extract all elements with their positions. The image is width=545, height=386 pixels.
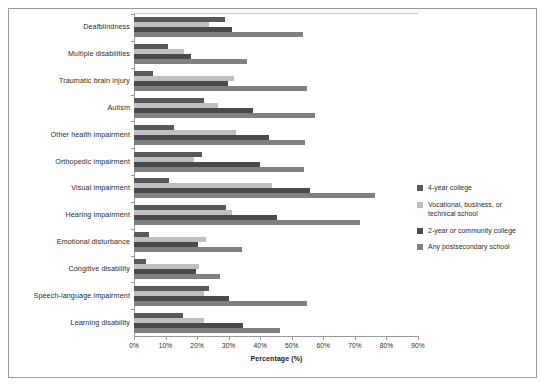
legend-item-label: 2-year or community college [428,227,516,234]
chart-category-group [134,256,418,283]
y-axis-tick [131,95,134,96]
x-axis-tick-label: 20% [182,342,212,349]
chart-bar [134,274,220,279]
y-axis-category-label: Learning disability [10,318,130,327]
y-axis-category-label: Other health impairment [10,130,130,139]
chart-bar [134,32,303,37]
y-axis-tick [131,14,134,15]
x-axis-tick-label: 80% [371,342,401,349]
y-axis-category-label: Emotional disturbance [10,237,130,246]
x-axis-tick [323,336,324,340]
legend-item-label: 4-year college [428,184,472,191]
x-axis-tick-label: 70% [340,342,370,349]
x-axis-tick [386,336,387,340]
chart-bar [134,113,315,118]
chart-category-group [134,175,418,202]
y-axis-category-label: Visual impairment [10,183,130,192]
x-axis-tick-label: 0% [119,342,149,349]
chart-bar [134,140,305,145]
x-axis-tick-label: 90% [403,342,433,349]
y-axis-category-label: Autism [10,103,130,112]
y-axis-tick [131,148,134,149]
chart-category-group [134,148,418,175]
y-axis-category-label: Traumatic brain injury [10,76,130,85]
x-axis-tick-label: 60% [308,342,338,349]
chart-bar [134,301,307,306]
chart-bar [134,86,307,91]
legend-item-label: Vocational, business, or technical schoo… [428,201,502,218]
y-axis-tick [131,309,134,310]
chart-bar [134,220,360,225]
x-axis-tick [355,336,356,340]
y-axis-category-label: Deafblindness [10,22,130,31]
chart-bar [134,59,247,64]
chart-legend: 4-year collegeVocational, business, or t… [417,183,525,259]
legend-item: 2-year or community college [417,226,525,236]
legend-swatch-icon [417,202,423,208]
y-axis-category-label: Orthopedic impairment [10,157,130,166]
x-axis-title: Percentage (%) [134,355,419,362]
x-axis-tick [197,336,198,340]
y-axis-tick [131,175,134,176]
chart-screenshot: 0%10%20%30%40%50%60%70%80%90% Percentage… [0,0,545,386]
chart-category-group [134,229,418,256]
legend-item: Vocational, business, or technical schoo… [417,200,525,219]
legend-swatch-icon [417,228,423,234]
chart-category-group [134,121,418,148]
chart-category-group [134,14,418,41]
x-axis-line [134,336,419,337]
x-axis-tick [418,336,419,340]
y-axis-tick [131,202,134,203]
x-axis-tick [134,336,135,340]
chart-bar [134,247,242,252]
legend-item: Any postsecondary school [417,242,525,252]
chart-category-group [134,282,418,309]
y-axis-tick [131,41,134,42]
y-axis-tick [131,229,134,230]
legend-item-label: Any postsecondary school [428,243,510,250]
y-axis-tick [131,68,134,69]
y-axis-tick [131,282,134,283]
y-axis-category-label: Multiple disabilities [10,49,130,58]
x-axis-tick [260,336,261,340]
y-axis-category-label: Speech-language impairment [10,291,130,300]
chart-bar [134,328,280,333]
x-axis-tick-label: 40% [245,342,275,349]
x-axis-tick [166,336,167,340]
x-axis-tick-label: 50% [277,342,307,349]
x-axis-tick [292,336,293,340]
legend-item: 4-year college [417,183,525,193]
legend-swatch-icon [417,244,423,250]
chart-bar [134,167,304,172]
chart-category-group [134,68,418,95]
chart-category-group [134,95,418,122]
x-axis-tick-label: 10% [151,342,181,349]
plot-area [134,14,418,336]
y-axis-tick [131,256,134,257]
y-axis-category-label: Congitive disability [10,264,130,273]
chart-bar [134,193,375,198]
y-axis-tick [131,121,134,122]
legend-swatch-icon [417,185,423,191]
y-axis-category-label: Hearing impairment [10,210,130,219]
chart-category-group [134,309,418,336]
x-axis-tick [229,336,230,340]
x-axis-tick-label: 30% [214,342,244,349]
chart-category-group [134,41,418,68]
chart-category-group [134,202,418,229]
